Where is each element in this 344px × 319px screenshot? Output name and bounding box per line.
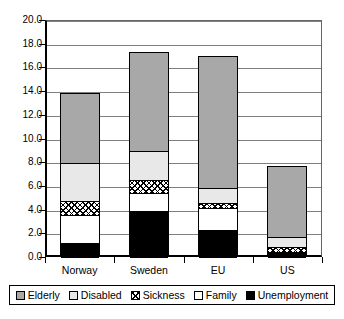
x-axis-tick bbox=[184, 257, 185, 263]
x-axis-label-us: US bbox=[247, 264, 327, 276]
legend-item-sickness[interactable]: Sickness bbox=[131, 289, 185, 301]
bar-segment-unemployment[interactable] bbox=[268, 253, 306, 258]
x-axis-tick bbox=[322, 257, 323, 263]
y-axis-tick-label: 2.0 bbox=[0, 228, 42, 238]
bar-segment-family[interactable] bbox=[130, 193, 168, 211]
bar-segment-disabled[interactable] bbox=[268, 237, 306, 248]
chart-legend: ElderlyDisabledSicknessFamilyUnemploymen… bbox=[9, 285, 335, 305]
y-axis-tick-label: 10.0 bbox=[0, 134, 42, 144]
bar-segment-family[interactable] bbox=[61, 215, 99, 242]
x-axis-label-eu: EU bbox=[178, 264, 258, 276]
legend-label: Family bbox=[206, 289, 237, 301]
y-axis-tick-label: 18.0 bbox=[0, 39, 42, 49]
bar-segment-disabled[interactable] bbox=[61, 163, 99, 201]
bar-segment-elderly[interactable] bbox=[61, 94, 99, 163]
bar-segment-unemployment[interactable] bbox=[199, 230, 237, 258]
x-axis-tick bbox=[114, 257, 115, 263]
x-axis-label-norway: Norway bbox=[40, 264, 120, 276]
y-axis-tick-label: 16.0 bbox=[0, 62, 42, 72]
bar-segment-disabled[interactable] bbox=[130, 151, 168, 179]
stacked-bar[interactable] bbox=[198, 56, 238, 257]
bar-segment-sickness[interactable] bbox=[61, 201, 99, 215]
y-axis-tick-label: 14.0 bbox=[0, 86, 42, 96]
stacked-bar[interactable] bbox=[60, 93, 100, 257]
legend-label: Elderly bbox=[28, 289, 60, 301]
legend-item-disabled[interactable]: Disabled bbox=[69, 289, 122, 301]
legend-label: Unemployment bbox=[258, 289, 329, 301]
bar-segment-unemployment[interactable] bbox=[61, 243, 99, 258]
gridline bbox=[47, 45, 321, 46]
y-axis-tick-label: 4.0 bbox=[0, 205, 42, 215]
legend-item-unemployment[interactable]: Unemployment bbox=[246, 289, 329, 301]
swatch-unemployment-icon bbox=[246, 291, 255, 300]
y-axis-tick-label: 8.0 bbox=[0, 157, 42, 167]
x-axis-tick bbox=[45, 257, 46, 263]
stacked-bar[interactable] bbox=[267, 166, 307, 257]
legend-item-elderly[interactable]: Elderly bbox=[16, 289, 60, 301]
swatch-disabled-icon bbox=[69, 291, 78, 300]
bar-segment-unemployment[interactable] bbox=[130, 211, 168, 258]
x-axis-tick bbox=[253, 257, 254, 263]
swatch-sickness-icon bbox=[131, 291, 140, 300]
stacked-bar[interactable] bbox=[129, 52, 169, 257]
gridline bbox=[47, 68, 321, 69]
legend-label: Sickness bbox=[143, 289, 185, 301]
bar-segment-elderly[interactable] bbox=[130, 53, 168, 151]
legend-item-family[interactable]: Family bbox=[194, 289, 237, 301]
bar-segment-elderly[interactable] bbox=[199, 57, 237, 189]
y-axis-tick-label: 12.0 bbox=[0, 110, 42, 120]
bar-segment-disabled[interactable] bbox=[199, 188, 237, 203]
x-axis-label-sweden: Sweden bbox=[109, 264, 189, 276]
swatch-elderly-icon bbox=[16, 291, 25, 300]
swatch-family-icon bbox=[194, 291, 203, 300]
y-axis-tick-label: 6.0 bbox=[0, 181, 42, 191]
gridline bbox=[47, 21, 321, 22]
bar-segment-sickness[interactable] bbox=[130, 180, 168, 193]
y-axis-tick-label: 0.0 bbox=[0, 252, 42, 262]
legend-label: Disabled bbox=[81, 289, 122, 301]
stacked-bar-chart: 0.02.04.06.08.010.012.014.016.018.020.0 … bbox=[0, 0, 344, 319]
bar-segment-elderly[interactable] bbox=[268, 167, 306, 237]
y-axis-tick-label: 20.0 bbox=[0, 15, 42, 25]
bar-segment-family[interactable] bbox=[199, 208, 237, 229]
